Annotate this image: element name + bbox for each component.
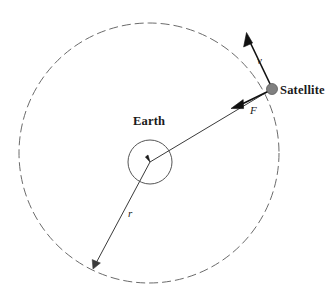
satellite-label: Satellite <box>280 84 325 97</box>
radius-vector-arrowhead <box>92 260 100 269</box>
diagram-canvas <box>0 0 331 295</box>
force-label: F <box>250 105 257 116</box>
force-vector-arrowhead <box>231 100 244 109</box>
radius-label: r <box>128 208 132 219</box>
orbit-path-circle <box>19 23 279 283</box>
radius-vector-inner-arrowhead <box>145 155 150 162</box>
velocity-label: v <box>257 55 262 66</box>
satellite-body-circle <box>267 84 278 95</box>
radius-vector-line <box>95 162 150 265</box>
satellite-orbit-diagram: Earth Satellite r F v <box>0 0 331 295</box>
earth-label: Earth <box>133 115 165 128</box>
radius-line-to-satellite <box>150 89 272 162</box>
